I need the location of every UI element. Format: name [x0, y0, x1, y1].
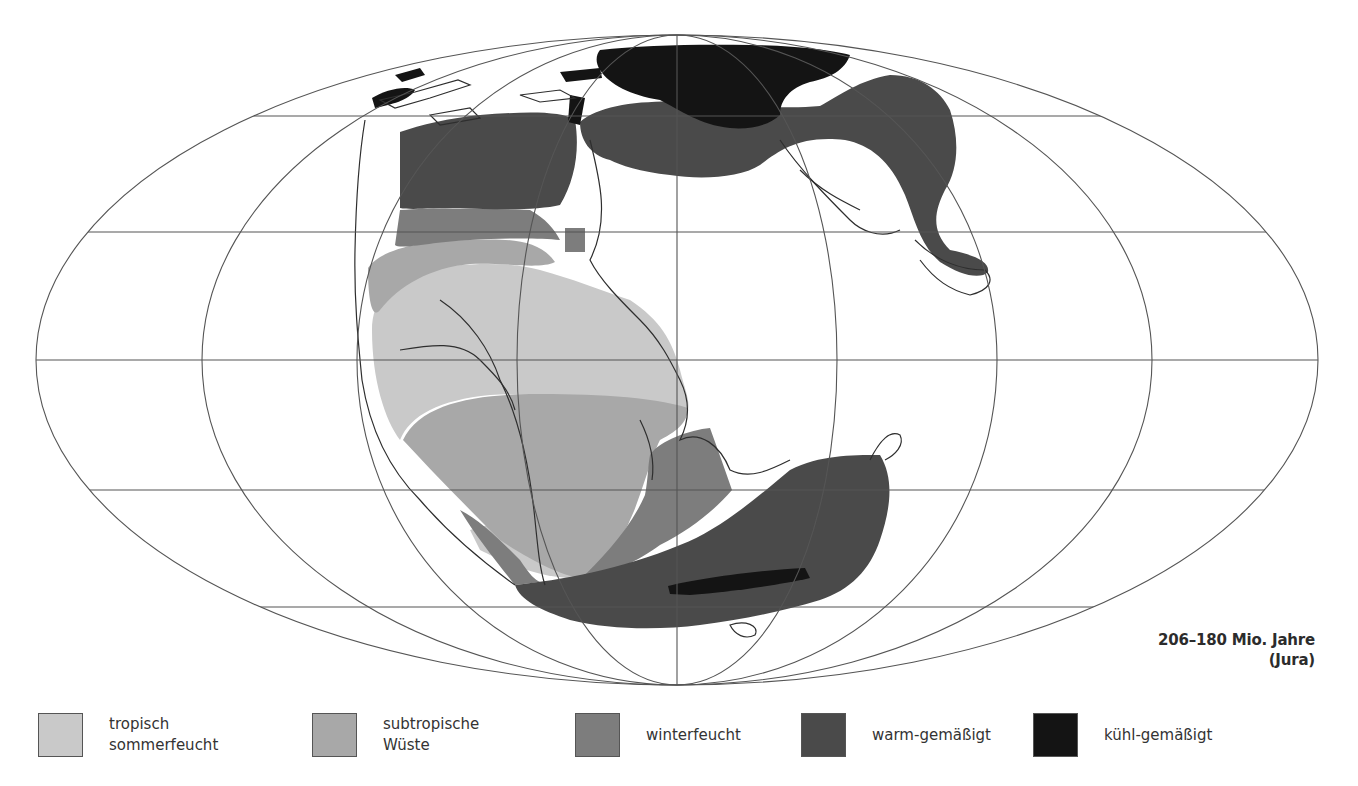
legend-item-winterfeucht: winterfeucht — [575, 712, 741, 758]
legend-label: winterfeucht — [646, 725, 741, 746]
paleoclimate-map — [0, 0, 1358, 700]
legend-label: tropisch sommerfeucht — [109, 714, 218, 756]
legend-item-warm-gemaessigt: warm-gemäßigt — [801, 712, 991, 758]
climate-zones — [368, 45, 988, 629]
caption-era: (Jura) — [1158, 650, 1315, 670]
legend-label: warm-gemäßigt — [872, 725, 991, 746]
legend: tropisch sommerfeucht subtropische Wüste… — [0, 712, 1358, 762]
caption-period: 206–180 Mio. Jahre — [1158, 630, 1315, 650]
legend-swatch — [575, 713, 620, 757]
legend-swatch — [312, 713, 357, 757]
map-caption: 206–180 Mio. Jahre (Jura) — [1158, 630, 1315, 670]
legend-swatch — [38, 713, 83, 757]
legend-swatch — [801, 713, 846, 757]
legend-swatch — [1033, 713, 1078, 757]
legend-item-kuehl-gemaessigt: kühl-gemäßigt — [1033, 712, 1212, 758]
legend-item-tropisch-sommerfeucht: tropisch sommerfeucht — [38, 712, 218, 758]
legend-label: kühl-gemäßigt — [1104, 725, 1212, 746]
legend-item-subtropische-wueste: subtropische Wüste — [312, 712, 479, 758]
legend-label: subtropische Wüste — [383, 714, 479, 756]
